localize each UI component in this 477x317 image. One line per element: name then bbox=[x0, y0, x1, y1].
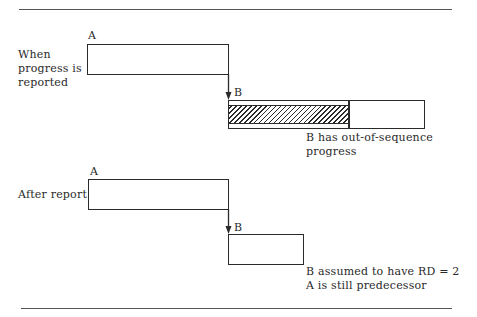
arrow-down-icon bbox=[226, 209, 232, 234]
dependency-arrows bbox=[0, 0, 477, 317]
arrow-down-icon bbox=[226, 74, 232, 100]
